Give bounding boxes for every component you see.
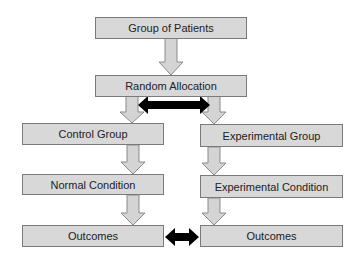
node-label: Experimental Group: [223, 130, 321, 142]
down-arrow-icon: [202, 147, 226, 175]
node-label: Normal Condition: [51, 179, 136, 191]
down-arrow-icon: [159, 38, 183, 75]
node-label: Group of Patients: [128, 22, 214, 34]
node-normal-condition: Normal Condition: [22, 174, 164, 195]
node-control-group: Control Group: [22, 123, 164, 145]
node-label: Experimental Condition: [215, 181, 329, 193]
down-arrow-icon: [121, 145, 145, 174]
node-experimental-group: Experimental Group: [200, 124, 343, 147]
node-random-allocation: Random Allocation: [95, 75, 247, 97]
double-arrow-icon: [138, 96, 210, 114]
down-arrow-icon: [121, 195, 145, 225]
node-outcomes-control: Outcomes: [22, 225, 164, 247]
down-arrow-icon: [120, 96, 144, 123]
node-label: Outcomes: [68, 230, 118, 242]
down-arrow-icon: [202, 198, 226, 225]
node-label: Random Allocation: [125, 80, 217, 92]
node-label: Control Group: [58, 128, 127, 140]
double-arrow-icon: [165, 228, 199, 246]
node-group-of-patients: Group of Patients: [95, 17, 247, 39]
down-arrow-icon: [202, 96, 226, 124]
node-experimental-condition: Experimental Condition: [200, 175, 343, 198]
node-label: Outcomes: [246, 230, 296, 242]
node-outcomes-experimental: Outcomes: [200, 225, 343, 247]
